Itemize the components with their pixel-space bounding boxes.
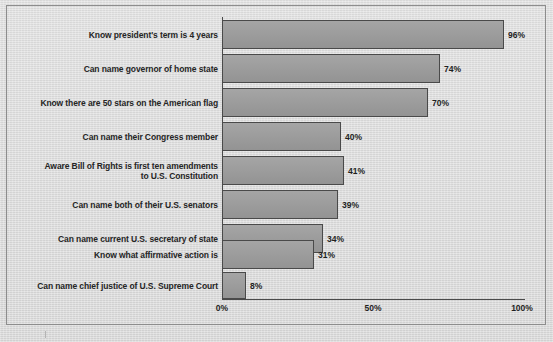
category-label: Know what affirmative action is [18,250,218,260]
category-label: Aware Bill of Rights is first ten amendm… [18,161,218,181]
chart-row: Know what affirmative action is 31% [0,240,553,269]
category-label: Can name governor of home state [18,64,218,74]
bar [222,240,314,269]
category-label: Can name chief justice of U.S. Supreme C… [18,281,218,291]
category-label: Know there are 50 stars on the American … [18,98,218,108]
x-tick-label-0: 0% [216,303,228,314]
bar-value-label: 8% [250,281,262,291]
bar-value-label: 39% [342,200,359,210]
bar [222,20,504,49]
chart-row: Can name chief justice of U.S. Supreme C… [0,272,553,299]
bar [222,272,246,299]
scan-artifact-mark [45,331,46,338]
bar [222,88,428,117]
chart-row: Can name governor of home state 74% [0,54,553,83]
bar-chart-plot-area: Know president's term is 4 years 96% Can… [0,0,553,342]
category-label: Know president's term is 4 years [18,30,218,40]
bar [222,54,440,83]
category-label: Can name their Congress member [18,132,218,142]
chart-row: Know president's term is 4 years 96% [0,20,553,49]
x-axis-line [222,299,525,300]
bar-value-label: 74% [444,64,461,74]
bar-value-label: 41% [348,166,365,176]
x-tick-label-50: 50% [364,303,381,314]
chart-row: Can name their Congress member 40% [0,122,553,151]
chart-row: Aware Bill of Rights is first ten amendm… [0,156,553,185]
bar-value-label: 40% [345,132,362,142]
bar-value-label: 70% [432,98,449,108]
x-tick-label-100: 100% [511,303,533,314]
bar [222,190,338,219]
bar-value-label: 31% [318,250,335,260]
chart-row: Know there are 50 stars on the American … [0,88,553,117]
y-axis-line [222,17,223,300]
category-label: Can name both of their U.S. senators [18,200,218,210]
chart-row: Can name both of their U.S. senators 39% [0,190,553,219]
bar [222,122,341,151]
bar-value-label: 96% [508,30,525,40]
bar [222,156,344,185]
